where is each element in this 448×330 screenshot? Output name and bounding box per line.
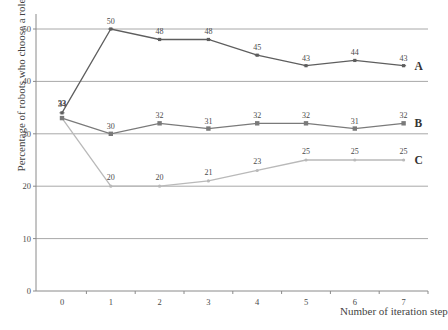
y-tick-label: 20	[23, 181, 32, 191]
series-label-C: C	[415, 154, 423, 166]
y-tick-label: 10	[23, 234, 32, 244]
data-label: 25	[400, 147, 408, 156]
x-tick-label: 4	[255, 297, 260, 307]
data-label: 43	[302, 54, 310, 63]
data-series: 3320202123252525333032313232313234504848…	[58, 17, 408, 188]
data-point	[157, 121, 161, 125]
x-tick-label: 3	[206, 297, 210, 307]
series-A: 3450484845434443	[58, 17, 408, 114]
data-point	[109, 185, 112, 188]
data-label: 45	[253, 43, 261, 52]
data-label: 32	[302, 111, 310, 120]
data-label: 44	[351, 48, 359, 57]
x-tick-label: 2	[157, 297, 161, 307]
data-point	[207, 179, 210, 182]
data-label: 50	[107, 17, 115, 26]
data-label: 23	[253, 157, 261, 166]
gridlines	[36, 29, 428, 239]
data-label: 20	[156, 173, 164, 182]
data-label: 32	[156, 111, 164, 120]
data-label: 34	[58, 100, 66, 109]
x-tick-label: 0	[60, 297, 64, 307]
data-label: 32	[400, 111, 408, 120]
y-tick-label: 0	[27, 286, 31, 296]
data-label: 25	[351, 147, 359, 156]
data-label: 25	[302, 147, 310, 156]
x-tick-label: 5	[304, 297, 308, 307]
data-point	[304, 158, 307, 161]
x-tick-label: 1	[109, 297, 113, 307]
data-point	[206, 126, 210, 130]
y-axis-title: Percentage of robots who choose a role	[15, 0, 27, 171]
data-point	[255, 121, 259, 125]
data-point	[256, 169, 259, 172]
data-label: 21	[204, 168, 212, 177]
data-point	[304, 121, 308, 125]
series-label-B: B	[415, 117, 423, 129]
data-label: 31	[204, 117, 212, 126]
data-label: 20	[107, 173, 115, 182]
data-label: 31	[351, 117, 359, 126]
data-point	[401, 121, 405, 125]
data-point	[353, 158, 356, 161]
data-label: 30	[107, 122, 115, 131]
series-C: 3320202123252525	[58, 99, 408, 188]
data-point	[158, 185, 161, 188]
data-label: 43	[400, 54, 408, 63]
series-B: 3330323132323132	[58, 99, 408, 136]
x-axis-title: Number of iteration step	[340, 305, 448, 317]
data-point	[109, 132, 113, 136]
series-labels: CBA	[415, 60, 424, 166]
data-point	[60, 116, 64, 120]
series-label-A: A	[415, 60, 424, 72]
axes	[33, 14, 428, 294]
data-label: 48	[156, 27, 164, 36]
data-point	[353, 126, 357, 130]
series-line	[62, 29, 404, 113]
data-point	[402, 158, 405, 161]
data-label: 48	[204, 27, 212, 36]
data-label: 32	[253, 111, 261, 120]
